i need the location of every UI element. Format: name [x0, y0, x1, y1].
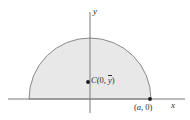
centroid-label: C(0, y) [91, 76, 115, 85]
point-a-comma: , [141, 102, 143, 112]
centroid-point-marker [86, 80, 90, 84]
y-axis-label: y [93, 7, 97, 16]
semicircle-centroid-figure: y x C(0, y) (a, 0) [0, 0, 190, 120]
x-axis-label: x [171, 101, 175, 110]
centroid-comma: , [104, 75, 106, 85]
centroid-coord-y: y [108, 76, 112, 85]
radius-endpoint-marker [148, 97, 152, 101]
figure-canvas [0, 0, 190, 120]
centroid-close-paren: ) [112, 75, 115, 85]
point-a-close-paren: ) [150, 102, 153, 112]
radius-endpoint-label: (a, 0) [134, 103, 152, 112]
